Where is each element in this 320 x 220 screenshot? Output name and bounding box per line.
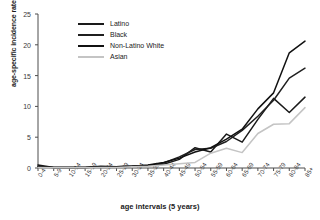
legend-item[interactable]: Black (78, 29, 164, 40)
series-line (38, 97, 305, 167)
series-line (38, 108, 305, 168)
legend-swatch (78, 23, 104, 25)
legend-item[interactable]: Asian (78, 51, 164, 62)
legend-label: Asian (110, 53, 128, 60)
legend-swatch (78, 34, 104, 36)
legend-label: Non-Latino White (110, 42, 164, 49)
legend-item[interactable]: Latino (78, 18, 164, 29)
legend-item[interactable]: Non-Latino White (78, 40, 164, 51)
series-line (38, 68, 305, 167)
legend-swatch (78, 45, 104, 47)
chart-legend: LatinoBlackNon-Latino WhiteAsian (78, 18, 164, 62)
legend-label: Latino (110, 20, 129, 27)
chart-figure: age-specific incidence rate age interval… (0, 0, 320, 220)
legend-swatch (78, 56, 104, 58)
legend-label: Black (110, 31, 127, 38)
